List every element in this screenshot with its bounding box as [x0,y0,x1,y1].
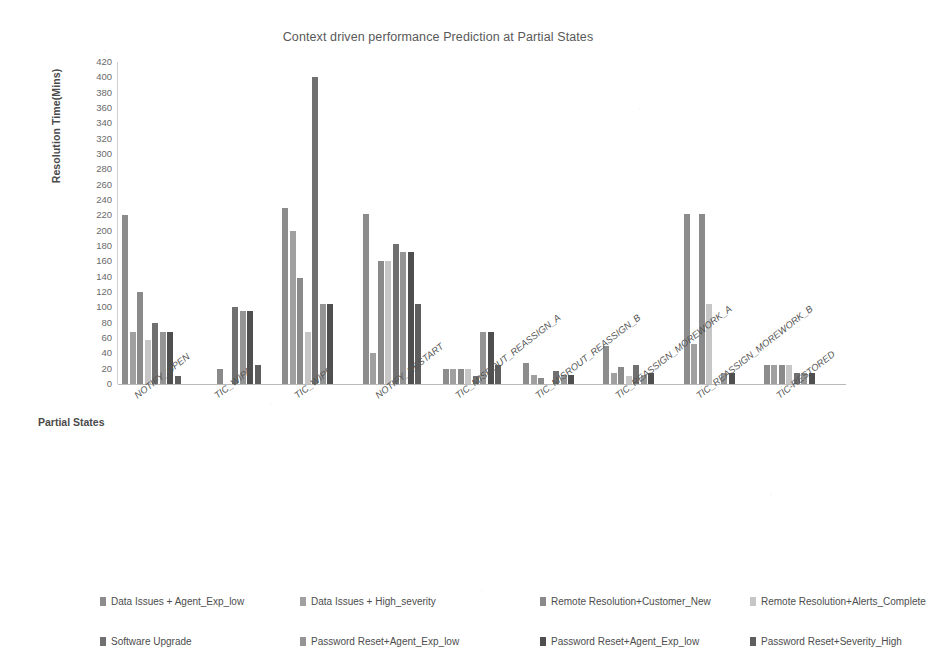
legend-swatch-icon [540,597,546,606]
bar-group [122,62,182,384]
bar[interactable] [691,344,697,384]
y-axis-tick: 420 [96,57,112,67]
y-axis-tick: 140 [96,272,112,282]
bar[interactable] [297,278,303,384]
y-axis-tick: 120 [96,287,112,297]
legend-label: Data Issues + Agent_Exp_low [111,596,244,607]
legend-label: Software Upgrade [111,636,192,647]
bar[interactable] [771,365,777,384]
y-axis-tick: 220 [96,211,112,221]
y-axis-tick: 0 [107,379,112,389]
legend-item[interactable]: Data Issues + High_severity [300,596,436,607]
legend-item[interactable]: Remote Resolution+Customer_New [540,596,711,607]
bar[interactable] [385,261,391,384]
legend-item[interactable]: Software Upgrade [100,636,192,647]
y-axis-tick: 320 [96,134,112,144]
plot-area: 0204060801001201401601802002202402602803… [118,62,840,384]
y-axis-tick: 100 [96,303,112,313]
bar[interactable] [400,252,406,384]
y-axis-tick: 380 [96,88,112,98]
bar[interactable] [618,367,624,384]
bar[interactable] [312,77,318,384]
bar-group [443,62,503,384]
bar-group [363,62,423,384]
legend-swatch-icon [750,637,756,646]
bar[interactable] [255,365,261,384]
x-axis-title: Partial States [38,416,105,428]
legend-swatch-icon [540,637,546,646]
y-axis-tick: 280 [96,165,112,175]
legend-swatch-icon [300,637,306,646]
legend-row [100,548,870,572]
bar[interactable] [370,353,376,384]
legend-swatch-icon [100,637,106,646]
y-axis-tick: 400 [96,73,112,83]
bar[interactable] [175,376,181,384]
legend-label: Data Issues + High_severity [311,596,436,607]
legend-label: Remote Resolution+Alerts_Complete [761,596,926,607]
y-axis-tick: 80 [101,318,112,328]
bar[interactable] [611,373,617,384]
y-axis-tick: 40 [101,349,112,359]
bar-group [282,62,342,384]
bar[interactable] [699,214,705,384]
legend-label: Password Reset+Agent_Exp_low [311,636,459,647]
y-axis-tick: 180 [96,241,112,251]
y-axis-tick: 360 [96,103,112,113]
y-axis-tick: 260 [96,180,112,190]
bar[interactable] [217,369,223,384]
bar[interactable] [378,261,384,384]
bar[interactable] [393,244,399,384]
legend-item[interactable]: Password Reset+Agent_Exp_low [300,636,459,647]
bar[interactable] [290,231,296,384]
chart-title: Context driven performance Prediction at… [0,30,876,44]
bar[interactable] [450,369,456,384]
bar[interactable] [684,214,690,384]
y-axis-tick: 60 [101,333,112,343]
legend-swatch-icon [300,597,306,606]
y-axis-tick: 200 [96,226,112,236]
bar[interactable] [443,369,449,384]
bar[interactable] [363,214,369,384]
legend-item[interactable]: Password Reset+Agent_Exp_low [540,636,699,647]
y-axis-tick: 160 [96,257,112,267]
legend-label: Password Reset+Severity_High [761,636,902,647]
bar[interactable] [130,332,136,384]
bar-group [202,62,262,384]
legend-item[interactable]: Remote Resolution+Alerts_Complete [750,596,926,607]
bar[interactable] [531,375,537,384]
bar[interactable] [137,292,143,384]
legend-label: Remote Resolution+Customer_New [551,596,711,607]
y-axis-tick: 240 [96,195,112,205]
bar[interactable] [282,208,288,384]
chart-legend: Data Issues + Agent_Exp_lowData Issues +… [100,548,870,596]
legend-row [100,572,870,596]
bar[interactable] [122,215,128,384]
legend-swatch-icon [100,597,106,606]
y-axis-tick: 20 [101,364,112,374]
y-axis-title: Resolution Time(Mins) [50,26,62,226]
bar[interactable] [458,369,464,384]
bar[interactable] [523,363,529,384]
legend-swatch-icon [750,597,756,606]
bar[interactable] [779,365,785,384]
y-axis-tick: 340 [96,119,112,129]
legend-item[interactable]: Data Issues + Agent_Exp_low [100,596,244,607]
legend-label: Password Reset+Agent_Exp_low [551,636,699,647]
bar[interactable] [603,346,609,384]
legend-item[interactable]: Password Reset+Severity_High [750,636,902,647]
y-axis-tick: 300 [96,149,112,159]
bar[interactable] [764,365,770,384]
